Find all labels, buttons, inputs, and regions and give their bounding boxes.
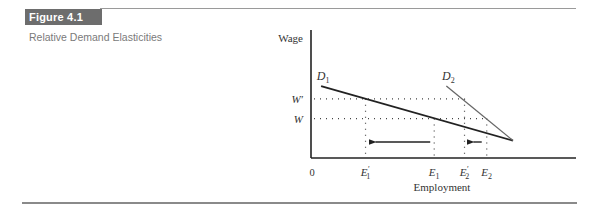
series-label-d2: D2	[441, 69, 455, 85]
x-tick-label: E′1	[360, 165, 370, 181]
bottom-rule	[22, 202, 577, 204]
demand-curve-d2	[446, 86, 513, 141]
y-tick-label: W′	[291, 93, 303, 105]
y-tick-label: W	[294, 113, 304, 125]
x-tick-label: E2	[480, 166, 492, 181]
chart: WageEmployment0W′WD1D2E′1E1E′2E2	[0, 0, 601, 220]
y-axis-label: Wage	[278, 32, 303, 44]
origin-label: 0	[309, 167, 314, 178]
x-tick-label: E1	[428, 166, 440, 181]
demand-curve-d1	[321, 86, 513, 141]
x-tick-label: E′2	[459, 165, 469, 181]
series-label-d1: D1	[316, 69, 330, 85]
x-axis-label: Employment	[414, 181, 471, 193]
